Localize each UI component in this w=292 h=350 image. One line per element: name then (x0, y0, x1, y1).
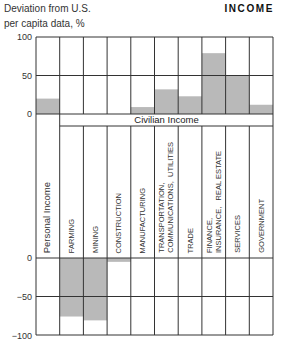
category-label: FARMING (67, 219, 76, 253)
category-label: TRADE (186, 228, 195, 253)
category-label: Personal Income (42, 182, 51, 253)
chart-grid (0, 0, 292, 350)
category-label: GOVERNMENT (257, 199, 266, 253)
category-label: TRANSPORTATION, COMMUNICATIONS, UTILITIE… (157, 142, 175, 253)
bar (249, 105, 273, 114)
category-label: MANUFACTURING (138, 188, 147, 253)
bar (83, 258, 107, 320)
civilian-income-label: Civilian Income (60, 114, 273, 126)
bar (131, 107, 155, 114)
category-label: MINING (91, 226, 100, 253)
bar (202, 53, 226, 114)
category-label: SERVICES (233, 215, 242, 253)
category-label: CONSTRUCTION (114, 193, 123, 253)
bar (107, 258, 131, 262)
bar (226, 76, 250, 115)
category-label: FINANCE, INSURANCE, REAL ESTATE (205, 151, 223, 253)
bar (178, 96, 202, 114)
bar (155, 89, 179, 114)
bar (60, 258, 84, 317)
bar (36, 99, 60, 114)
